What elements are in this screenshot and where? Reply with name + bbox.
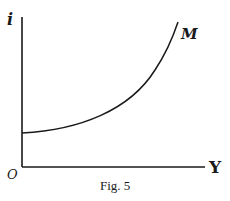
figure-chart: i M Y O Fig. 5 bbox=[0, 0, 230, 201]
origin-label: O bbox=[7, 167, 18, 182]
figure-caption: Fig. 5 bbox=[100, 178, 130, 193]
x-axis-label: Y bbox=[208, 157, 222, 177]
curve-label-m: M bbox=[180, 25, 198, 43]
curve-m bbox=[22, 22, 178, 133]
y-axis-label: i bbox=[7, 10, 13, 29]
